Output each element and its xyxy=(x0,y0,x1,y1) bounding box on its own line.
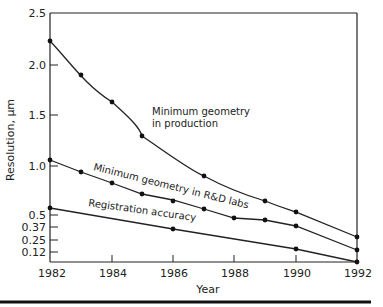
x-tick-label: 1990 xyxy=(283,267,311,280)
y-tick-label: 1.5 xyxy=(29,109,47,122)
resolution-chart: 2.5 2.0 1.5 1.0 0.5 0.37 0.25 0.12 1982 … xyxy=(0,0,383,307)
x-tick-label: 1982 xyxy=(38,267,66,280)
x-tick-label: 1984 xyxy=(99,267,127,280)
series-registration-markers xyxy=(48,206,360,265)
y-tick-label: 0.12 xyxy=(22,246,47,259)
x-tick-label: 1992 xyxy=(344,267,372,280)
annotation-production-line1: Minimum geometry xyxy=(152,106,250,117)
annotation-production-line2: in production xyxy=(152,118,218,129)
y-tick-label: 1.0 xyxy=(29,160,47,173)
x-axis-title: Year xyxy=(195,283,220,296)
plot-frame xyxy=(50,13,357,262)
x-axis-ticks xyxy=(112,255,296,262)
x-tick-label: 1986 xyxy=(160,267,188,280)
y-tick-label: 2.5 xyxy=(29,7,47,20)
y-tick-label: 2.0 xyxy=(29,59,47,72)
y-axis-labels: 2.5 2.0 1.5 1.0 0.5 0.37 0.25 0.12 xyxy=(22,7,47,259)
y-tick-label: 0.37 xyxy=(22,221,47,234)
x-axis-labels: 1982 1984 1986 1988 1990 1992 xyxy=(38,267,372,280)
x-tick-label: 1988 xyxy=(221,267,249,280)
annotation-registration: Registration accuracy xyxy=(88,197,197,223)
series-registration xyxy=(48,206,360,265)
y-axis-title: Resolution, μm xyxy=(4,99,17,181)
